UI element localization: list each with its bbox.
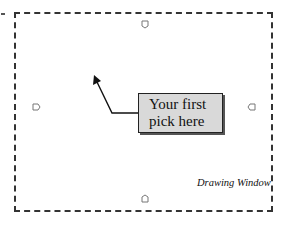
callout-line-1: Your first [149,96,222,113]
drawing-window-label: Drawing Window [197,177,271,188]
callout-line-2: pick here [149,113,222,130]
callout-box: Your first pick here [138,93,223,133]
